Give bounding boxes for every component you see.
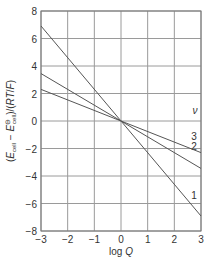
- x-tick-label: −1: [89, 234, 101, 245]
- x-axis-label: log Q: [109, 246, 133, 257]
- y-tick-label: −4: [26, 171, 38, 182]
- legend-title: ν: [193, 105, 198, 116]
- y-tick-label: −6: [26, 199, 38, 210]
- y-tick-label: −8: [26, 226, 38, 237]
- x-tick-label: 1: [145, 234, 151, 245]
- y-tick-label: 2: [31, 89, 37, 100]
- y-tick-label: −2: [26, 144, 38, 155]
- x-tick-label: 0: [118, 234, 124, 245]
- series-label-3: 3: [191, 131, 197, 142]
- x-tick-label: −3: [35, 234, 47, 245]
- x-tick-label: 2: [172, 234, 178, 245]
- y-tick-label: 8: [31, 6, 37, 17]
- y-tick-label: 0: [31, 116, 37, 127]
- series-label-1: 1: [191, 190, 197, 201]
- y-axis-label: (Ecell − E⊖cell)/(RT/F): [4, 80, 17, 162]
- y-tick-label: 4: [31, 61, 37, 72]
- x-tick-label: 3: [198, 234, 204, 245]
- y-tick-label: 6: [31, 34, 37, 45]
- chart: −3−2−1012386420−2−4−6−8log Q(Ecell − E⊖c…: [0, 0, 217, 275]
- x-tick-label: −2: [62, 234, 74, 245]
